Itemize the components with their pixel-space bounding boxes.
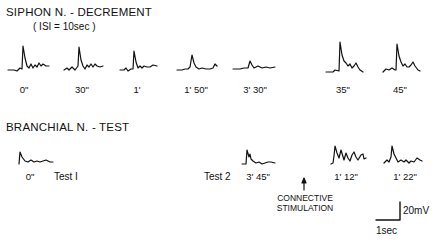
siphon-trace-35s (326, 42, 363, 72)
branchial-trace-0s (19, 152, 53, 164)
siphon-label-1m50s: 1' 50" (184, 84, 208, 95)
isi-subtitle: ( ISI = 10sec ) (33, 21, 96, 32)
siphon-label-45s: 45" (393, 84, 407, 95)
siphon-label-30s: 30" (75, 84, 89, 95)
stimulation-label-line2: STIMULATION (277, 203, 334, 213)
test2-label: Test 2 (204, 171, 231, 182)
branchial-label-0s: 0" (26, 171, 35, 182)
stimulation-arrowhead-icon (302, 178, 306, 183)
siphon-label-0s: 0" (20, 84, 29, 95)
siphon-label-35s: 35" (336, 84, 350, 95)
branchial-panel-title: BRANCHIAL N. - TEST (6, 121, 129, 133)
siphon-trace-1m50s (177, 55, 217, 70)
branchial-label-1m22s: 1' 22" (393, 171, 417, 182)
connective-stimulation-label: CONNECTIVE STIMULATION (277, 193, 334, 213)
branchial-label-3m45s: 3' 45" (246, 171, 270, 182)
branchial-trace-3m45s (242, 150, 275, 164)
siphon-trace-1m (120, 51, 157, 71)
scale-time-label: 1sec (376, 225, 397, 236)
branchial-trace-1m22s (384, 146, 422, 163)
branchial-label-1m12s: 1' 12" (334, 171, 358, 182)
test1-label: Test I (54, 171, 78, 182)
siphon-trace-3m30s (233, 61, 275, 69)
branchial-trace-1m12s (331, 146, 366, 164)
siphon-trace-30s (64, 47, 103, 70)
scale-bar (376, 202, 400, 220)
scale-voltage-label: 20mV (403, 205, 429, 216)
stimulation-label-line1: CONNECTIVE (277, 193, 334, 203)
siphon-panel-title: SIPHON N. - DECREMENT (6, 6, 152, 18)
siphon-trace-45s (383, 44, 420, 72)
siphon-label-3m30s: 3' 30" (243, 84, 267, 95)
siphon-label-1m: 1' (133, 84, 140, 95)
siphon-trace-0s (8, 46, 49, 71)
